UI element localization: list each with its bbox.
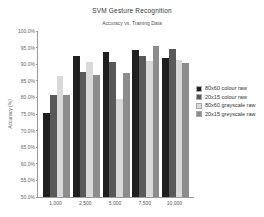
bar-groups [38,31,194,197]
legend-item: 80x60 grayscale raw [196,102,258,109]
plot-area: 100.0%95.0%90.0%85.0%80.0%75.0%70.0%65.0… [37,31,194,198]
x-tick-label: 5,000 [102,200,129,206]
legend-swatch [196,103,202,109]
bar [80,72,87,197]
bar [176,60,183,197]
y-tick: 85.0% [21,78,38,84]
bar-chart: SVM Gesture Recognition Accuracy vs. Tra… [0,0,264,217]
bar-group [73,31,100,197]
bar-group [43,31,70,197]
bar [139,56,146,197]
y-tick-mark [36,114,38,115]
y-tick-label: 60.0% [21,161,35,167]
chart-subtitle: Accuracy vs. Training Data [0,20,264,26]
y-tick-mark [36,80,38,81]
x-tick-label: 2,500 [72,200,99,206]
bar [57,76,64,197]
bar-group [132,31,159,197]
legend-label: 20x15 colour raw [205,94,247,101]
legend-swatch [196,86,202,92]
legend-label: 80x60 colour raw [205,85,247,92]
bar [109,62,116,197]
legend-item: 20x15 colour raw [196,94,258,101]
y-tick-label: 85.0% [21,78,35,84]
y-tick-mark [36,64,38,65]
bar-group [162,31,189,197]
bar-group [103,31,130,197]
y-tick-mark [36,31,38,32]
bar [162,58,169,197]
legend-swatch [196,94,202,100]
bar [123,73,130,197]
bar [73,56,80,197]
y-tick: 80.0% [21,94,38,100]
y-tick: 55.0% [21,177,38,183]
bar [116,99,123,197]
y-tick: 95.0% [21,45,38,51]
y-axis-title: Accuracy (%) [7,99,13,129]
y-tick-mark [36,180,38,181]
x-tick-label: 7,500 [131,200,158,206]
chart-title: SVM Gesture Recognition [0,7,264,14]
bar [182,63,189,197]
bar [93,75,100,197]
bar [146,61,153,197]
legend: 80x60 colour raw20x15 colour raw80x60 gr… [196,85,258,117]
legend-label: 20x15 greyscale raw [205,111,255,118]
bar [153,46,160,197]
bar [50,95,57,197]
y-tick-label: 80.0% [21,94,35,100]
bar [86,62,93,197]
y-tick-mark [36,97,38,98]
x-tick-label: 10,000 [161,200,188,206]
y-tick-label: 65.0% [21,144,35,150]
y-tick-mark [36,197,38,198]
y-tick-mark [36,130,38,131]
y-tick: 75.0% [21,111,38,117]
y-tick-label: 70.0% [21,128,35,134]
y-tick-label: 50.0% [21,194,35,200]
y-tick-label: 75.0% [21,111,35,117]
x-tick-label: 1,000 [42,200,69,206]
y-tick-label: 55.0% [21,177,35,183]
y-tick-label: 100.0% [18,28,35,34]
y-tick: 90.0% [21,61,38,67]
y-tick: 65.0% [21,144,38,150]
y-tick-mark [36,147,38,148]
bar [169,49,176,197]
bar [132,50,139,197]
y-tick: 50.0% [21,194,38,200]
y-tick: 70.0% [21,128,38,134]
legend-label: 80x60 grayscale raw [205,102,255,109]
y-tick-label: 95.0% [21,45,35,51]
y-tick-mark [36,47,38,48]
bar [103,52,110,197]
y-tick: 60.0% [21,161,38,167]
legend-item: 80x60 colour raw [196,85,258,92]
legend-swatch [196,111,202,117]
y-tick-mark [36,163,38,164]
x-axis-labels: 1,0002,5005,0007,50010,000 [37,200,193,206]
bar [43,113,50,197]
y-tick: 100.0% [18,28,38,34]
bar [63,95,70,197]
legend-item: 20x15 greyscale raw [196,111,258,118]
y-tick-label: 90.0% [21,61,35,67]
